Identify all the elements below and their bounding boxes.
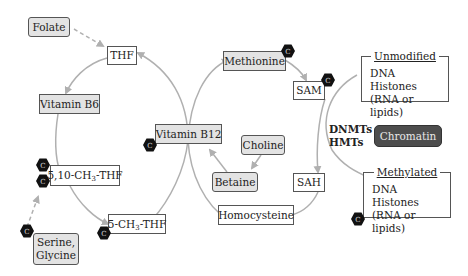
methylene-thf-node: 5,10-CH3-THF: [50, 165, 120, 186]
carbon-badge-icon: C: [143, 138, 157, 152]
methylated-group: Methylated DNA Histones (RNA or lipids): [363, 172, 451, 218]
enzymes-label: DNMTs HMTs: [329, 123, 372, 149]
unmodified-rna-lipids: (RNA or lipids): [370, 93, 448, 119]
carbon-badge-icon: C: [97, 226, 111, 240]
methylated-title: Methylated: [374, 166, 441, 178]
svg-text:C: C: [355, 216, 360, 224]
carbon-badge-icon: C: [20, 224, 34, 238]
folate-label: Folate: [32, 22, 65, 33]
carbon-badge-icon: C: [36, 158, 50, 172]
svg-text:C: C: [147, 142, 152, 150]
sah-label: SAH: [297, 177, 321, 188]
homocysteine-label: Homocysteine: [218, 210, 294, 221]
methylene-thf-label: 5,10-CH3-THF: [47, 170, 122, 181]
homocysteine-node: Homocysteine: [218, 205, 294, 225]
carbon-badge-icon: C: [321, 73, 335, 87]
thf-node: THF: [107, 46, 137, 65]
methyl-thf-node: 5-CH3-THF: [108, 214, 166, 234]
serine-label: Serine,: [37, 236, 75, 249]
choline-node: Choline: [241, 135, 285, 155]
unmodified-dna: DNA: [370, 67, 448, 80]
glycine-label: Glycine: [36, 249, 76, 262]
dnmts-label: DNMTs: [329, 123, 372, 136]
svg-text:C: C: [325, 77, 330, 85]
one-carbon-metabolism-diagram: Folate THF Vitamin B6 5,10-CH3-THF 5-CH3…: [0, 0, 468, 276]
methylated-rna-lipids: (RNA or lipids): [372, 209, 450, 235]
choline-label: Choline: [243, 140, 284, 151]
methyl-thf-label: 5-CH3-THF: [108, 219, 167, 230]
betaine-node: Betaine: [212, 172, 258, 192]
sah-node: SAH: [293, 173, 325, 192]
unmodified-group: Unmodified DNA Histones (RNA or lipids): [361, 56, 449, 102]
carbon-badge-icon: C: [36, 174, 50, 188]
vitamin-b6-label: Vitamin B6: [40, 99, 99, 110]
svg-text:C: C: [40, 178, 45, 186]
folate-node: Folate: [28, 17, 70, 37]
vitamin-b12-label: Vitamin B12: [156, 129, 222, 140]
svg-text:C: C: [40, 162, 45, 170]
unmodified-histones: Histones: [370, 80, 448, 93]
carbon-badge-icon: C: [281, 44, 295, 58]
methylated-dna: DNA: [372, 183, 450, 196]
methionine-node: Methionine: [223, 51, 286, 71]
methylated-histones: Histones: [372, 196, 450, 209]
chromatin-node: Chromatin: [374, 125, 442, 147]
serine-glycine-node: Serine, Glycine: [33, 233, 79, 265]
vitamin-b12-node: Vitamin B12: [155, 124, 222, 144]
sam-label: SAM: [296, 85, 322, 96]
hmts-label: HMTs: [329, 136, 372, 149]
svg-text:C: C: [101, 230, 106, 238]
vitamin-b6-node: Vitamin B6: [39, 94, 100, 114]
unmodified-title: Unmodified: [371, 50, 439, 62]
carbon-badge-icon: C: [351, 212, 365, 226]
svg-text:C: C: [285, 48, 290, 56]
chromatin-label: Chromatin: [380, 131, 437, 142]
methionine-label: Methionine: [224, 56, 285, 67]
svg-text:C: C: [24, 228, 29, 236]
betaine-label: Betaine: [215, 177, 256, 188]
thf-label: THF: [110, 50, 133, 61]
